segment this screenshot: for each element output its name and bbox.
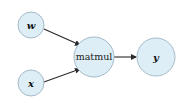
node-y: y xyxy=(137,38,175,76)
node-y-label: y xyxy=(152,52,160,63)
node-matmul: matmul xyxy=(74,37,114,77)
edge-x-matmul xyxy=(44,69,80,82)
edge-w-matmul xyxy=(44,29,80,45)
node-w-label: w xyxy=(27,20,36,31)
node-x: x xyxy=(18,70,44,96)
node-w: w xyxy=(18,12,44,38)
node-x-label: x xyxy=(27,78,35,89)
node-matmul-label: matmul xyxy=(76,51,113,62)
graph-canvas: w x matmul y xyxy=(0,0,185,103)
